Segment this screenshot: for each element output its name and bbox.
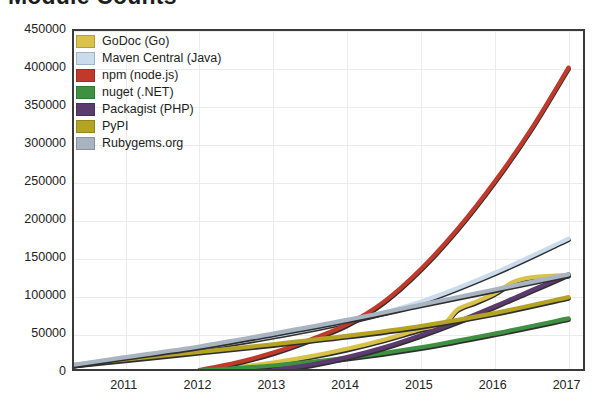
- y-tick-label: 0: [0, 364, 66, 378]
- y-tick-label: 400000: [0, 60, 66, 74]
- legend-item[interactable]: Packagist (PHP): [76, 102, 222, 117]
- y-tick-label: 350000: [0, 98, 66, 112]
- legend-swatch-icon: [76, 120, 95, 133]
- y-tick-label: 150000: [0, 250, 66, 264]
- x-tick-label: 2017: [553, 378, 581, 392]
- legend-label: npm (node.js): [102, 69, 178, 82]
- legend-item[interactable]: Maven Central (Java): [76, 51, 222, 66]
- x-tick-label: 2012: [184, 378, 212, 392]
- legend-swatch-icon: [76, 35, 95, 48]
- legend-swatch-icon: [76, 69, 95, 82]
- x-tick-label: 2011: [110, 378, 137, 392]
- legend-swatch-icon: [76, 52, 95, 65]
- chart-root: Module Counts 05000010000015000020000025…: [0, 0, 601, 412]
- legend: GoDoc (Go)Maven Central (Java)npm (node.…: [76, 34, 222, 151]
- chart-title: Module Counts: [8, 0, 177, 10]
- series-line-shadow: [199, 69, 568, 371]
- x-tick-label: 2015: [405, 378, 433, 392]
- legend-swatch-icon: [76, 86, 95, 99]
- y-tick-label: 450000: [0, 22, 66, 36]
- y-tick-label: 100000: [0, 288, 66, 302]
- legend-item[interactable]: nuget (.NET): [76, 85, 222, 100]
- series-line-shadow: [74, 240, 569, 366]
- x-tick-label: 2014: [331, 378, 359, 392]
- x-tick-label: 2013: [257, 378, 285, 392]
- legend-item[interactable]: PyPI: [76, 119, 222, 134]
- legend-label: GoDoc (Go): [102, 35, 169, 48]
- legend-label: nuget (.NET): [102, 86, 174, 99]
- y-tick-label: 250000: [0, 174, 66, 188]
- legend-label: PyPI: [102, 120, 128, 133]
- legend-item[interactable]: npm (node.js): [76, 68, 222, 83]
- y-tick-label: 50000: [0, 326, 66, 340]
- y-tick-label: 300000: [0, 136, 66, 150]
- legend-label: Packagist (PHP): [102, 103, 194, 116]
- legend-swatch-icon: [76, 137, 95, 150]
- series-line[interactable]: [199, 68, 568, 370]
- legend-item[interactable]: Rubygems.org: [76, 136, 222, 151]
- legend-item[interactable]: GoDoc (Go): [76, 34, 222, 49]
- x-tick-label: 2016: [479, 378, 507, 392]
- y-tick-label: 200000: [0, 212, 66, 226]
- legend-label: Rubygems.org: [102, 137, 183, 150]
- legend-swatch-icon: [76, 103, 95, 116]
- series-line[interactable]: [74, 274, 569, 364]
- legend-label: Maven Central (Java): [102, 52, 222, 65]
- series-line[interactable]: [74, 239, 569, 365]
